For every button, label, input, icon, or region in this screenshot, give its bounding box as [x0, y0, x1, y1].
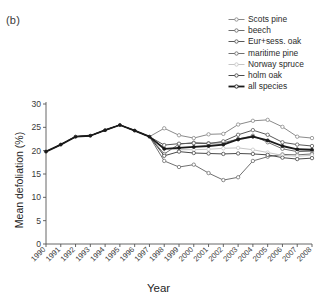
- legend-item: maritime pine: [228, 48, 317, 59]
- figure-panel-b: (b) Scots pinebeechEur+sess. oakmaritime…: [0, 0, 317, 306]
- legend-item: all species: [228, 81, 317, 92]
- line-chart-svg: 0510152025301990199119921993199419951996…: [0, 96, 317, 306]
- legend-marker-icon: [228, 48, 245, 59]
- legend-item-label: holm oak: [248, 70, 282, 81]
- svg-text:2002: 2002: [206, 245, 224, 263]
- svg-text:25: 25: [31, 122, 41, 132]
- legend-marker-icon: [228, 59, 245, 70]
- legend-item-label: all species: [248, 81, 287, 92]
- x-axis-label: Year: [0, 282, 317, 294]
- svg-text:2000: 2000: [177, 245, 195, 263]
- legend-marker-icon: [228, 25, 245, 36]
- svg-text:5: 5: [36, 216, 41, 226]
- legend-item-label: Scots pine: [248, 14, 287, 25]
- legend-item-label: maritime pine: [248, 48, 298, 59]
- legend-item: Scots pine: [228, 14, 317, 25]
- legend-item-label: beech: [248, 25, 271, 36]
- svg-text:1995: 1995: [103, 245, 121, 263]
- legend-marker-icon: [228, 36, 245, 47]
- chart-legend: Scots pinebeechEur+sess. oakmaritime pin…: [228, 14, 317, 92]
- svg-text:20: 20: [31, 146, 41, 156]
- svg-text:2003: 2003: [221, 245, 239, 263]
- y-axis-label: Mean defoliation (%): [13, 105, 25, 255]
- legend-marker-icon: [228, 14, 245, 25]
- svg-text:2007: 2007: [280, 245, 298, 263]
- svg-text:1990: 1990: [29, 245, 47, 263]
- legend-item-label: Norway spruce: [248, 59, 304, 70]
- panel-label: (b): [6, 14, 20, 26]
- legend-item: Eur+sess. oak: [228, 36, 317, 47]
- svg-text:2008: 2008: [295, 245, 313, 263]
- svg-text:30: 30: [31, 99, 41, 109]
- legend-item: beech: [228, 25, 317, 36]
- svg-text:1997: 1997: [133, 245, 151, 263]
- svg-text:1992: 1992: [59, 245, 77, 263]
- legend-marker-icon: [228, 70, 245, 81]
- svg-text:1994: 1994: [88, 245, 106, 263]
- svg-text:1998: 1998: [147, 245, 165, 263]
- legend-marker-icon: [228, 81, 245, 92]
- svg-text:10: 10: [31, 192, 41, 202]
- legend-item: Norway spruce: [228, 59, 317, 70]
- svg-text:1993: 1993: [73, 245, 91, 263]
- svg-text:1991: 1991: [44, 245, 62, 263]
- svg-text:1999: 1999: [162, 245, 180, 263]
- legend-item: holm oak: [228, 70, 317, 81]
- svg-text:2001: 2001: [192, 245, 210, 263]
- svg-text:2006: 2006: [266, 245, 284, 263]
- svg-text:1996: 1996: [118, 245, 136, 263]
- legend-item-label: Eur+sess. oak: [248, 36, 301, 47]
- svg-text:2005: 2005: [251, 245, 269, 263]
- plot-area-wrapper: 0510152025301990199119921993199419951996…: [0, 96, 317, 306]
- series-line: [45, 124, 314, 154]
- svg-text:2004: 2004: [236, 245, 254, 263]
- svg-text:15: 15: [31, 169, 41, 179]
